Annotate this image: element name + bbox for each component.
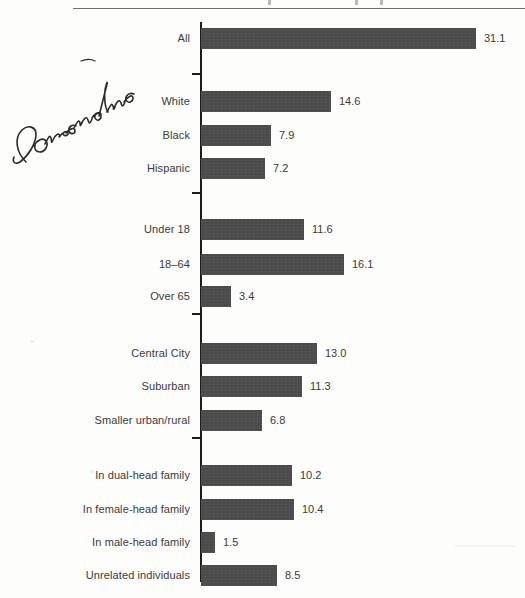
bar-hispanic xyxy=(201,158,265,179)
bar-value-label: 3.4 xyxy=(239,283,254,309)
bar-category-label: In female-head family xyxy=(0,496,190,522)
bar-value-label: 10.4 xyxy=(302,496,323,522)
bar-suburban xyxy=(201,376,302,397)
bar-smaller-urban-rural xyxy=(201,410,262,431)
bar-category-label: 18–64 xyxy=(0,251,190,277)
bar-white xyxy=(201,91,331,112)
bar-central-city xyxy=(201,343,317,364)
bar-row: Hispanic 7.2 xyxy=(0,155,525,181)
bar-row: White 14.6 xyxy=(0,88,525,114)
group-tick xyxy=(192,192,201,194)
bar-value-label: 14.6 xyxy=(339,88,360,114)
bar-row: In male-head family 1.5 xyxy=(0,529,525,555)
bar-under-18 xyxy=(201,219,304,240)
bar-dual-head-family xyxy=(201,465,292,486)
bar-row: Over 65 3.4 xyxy=(0,283,525,309)
bar-value-label: 7.9 xyxy=(279,122,294,148)
bar-chart: All 31.1 White 14.6 Black 7.9 Hispanic 7… xyxy=(0,0,525,598)
bar-row: All 31.1 xyxy=(0,25,525,51)
bar-row: Unrelated individuals 8.5 xyxy=(0,562,525,588)
bar-18-64 xyxy=(201,254,344,275)
group-tick xyxy=(192,73,201,75)
group-tick xyxy=(192,437,201,439)
bar-value-label: 8.5 xyxy=(285,562,300,588)
bar-category-label: Black xyxy=(0,122,190,148)
bar-value-label: 6.8 xyxy=(270,407,285,433)
bar-row: In dual-head family 10.2 xyxy=(0,462,525,488)
bar-value-label: 31.1 xyxy=(484,25,505,51)
bar-row: 18–64 16.1 xyxy=(0,251,525,277)
bar-unrelated-individuals xyxy=(201,565,277,586)
bar-over-65 xyxy=(201,286,231,307)
bar-category-label: Over 65 xyxy=(0,283,190,309)
bar-row: Under 18 11.6 xyxy=(0,216,525,242)
bar-row: Smaller urban/rural 6.8 xyxy=(0,407,525,433)
bar-category-label: All xyxy=(0,25,190,51)
bar-category-label: Suburban xyxy=(0,373,190,399)
bar-row: Suburban 11.3 xyxy=(0,373,525,399)
bar-category-label: Smaller urban/rural xyxy=(0,407,190,433)
bar-all xyxy=(201,28,476,49)
group-tick xyxy=(192,313,201,315)
bar-value-label: 11.3 xyxy=(310,373,331,399)
bar-value-label: 10.2 xyxy=(300,462,321,488)
bar-category-label: White xyxy=(0,88,190,114)
bar-male-head-family xyxy=(201,532,215,553)
bar-category-label: Unrelated individuals xyxy=(0,562,190,588)
bar-female-head-family xyxy=(201,499,294,520)
bar-value-label: 13.0 xyxy=(325,340,346,366)
bar-category-label: Central City xyxy=(0,340,190,366)
bar-row: Central City 13.0 xyxy=(0,340,525,366)
bar-value-label: 7.2 xyxy=(273,155,288,181)
bar-value-label: 11.6 xyxy=(312,216,333,242)
bar-category-label: Under 18 xyxy=(0,216,190,242)
bar-category-label: In dual-head family xyxy=(0,462,190,488)
bar-value-label: 16.1 xyxy=(352,251,373,277)
bar-category-label: Hispanic xyxy=(0,155,190,181)
bar-value-label: 1.5 xyxy=(223,529,238,555)
bar-row: Black 7.9 xyxy=(0,122,525,148)
bar-category-label: In male-head family xyxy=(0,529,190,555)
bar-row: In female-head family 10.4 xyxy=(0,496,525,522)
bar-black xyxy=(201,125,271,146)
